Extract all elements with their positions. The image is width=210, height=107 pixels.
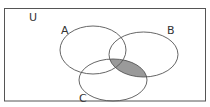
- set-c-label: C: [79, 92, 87, 105]
- set-a-label: A: [61, 24, 69, 37]
- universe-label: U: [29, 11, 37, 24]
- venn-diagram: U A B C: [0, 0, 210, 107]
- set-b-label: B: [167, 24, 175, 37]
